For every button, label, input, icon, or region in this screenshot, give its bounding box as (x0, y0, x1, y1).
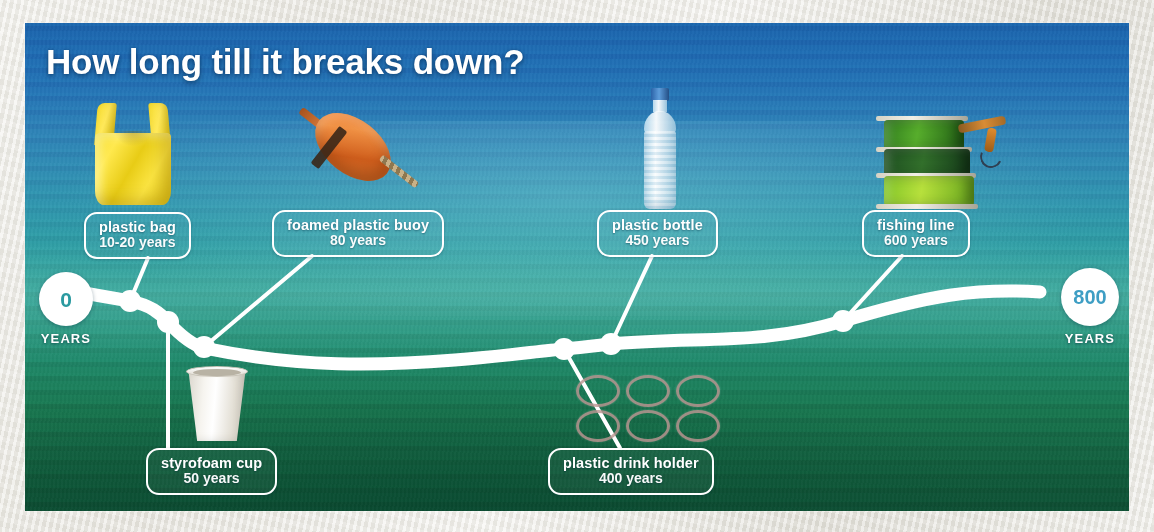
plastic-drink-holder-photo (574, 372, 726, 448)
callout-styrofoam-cup[interactable]: styrofoam cup 50 years (146, 448, 277, 495)
end-value: 800 (1073, 287, 1106, 307)
callout-label: styrofoam cup (161, 455, 262, 471)
bottle-shoulder (644, 111, 676, 133)
start-value: 0 (60, 289, 72, 310)
drink-holder-ring (676, 375, 720, 407)
callout-plastic-bottle[interactable]: plastic bottle 450 years (597, 210, 718, 257)
callout-duration: 600 years (877, 233, 955, 249)
callout-label: plastic bottle (612, 217, 703, 233)
callout-duration: 50 years (161, 471, 262, 487)
callout-fishing-line[interactable]: fishing line 600 years (862, 210, 970, 257)
plastic-bag-photo (88, 103, 178, 205)
callout-plastic-bag[interactable]: plastic bag 10-20 years (84, 212, 191, 259)
callout-label: foamed plastic buoy (287, 217, 429, 233)
foamed-plastic-buoy-photo (288, 92, 424, 214)
start-value-bubble: 0 (39, 272, 93, 326)
styrofoam-cup-opening (193, 369, 241, 376)
spool-green (884, 120, 964, 150)
page-title: How long till it breaks down? (46, 42, 524, 82)
timeline-end-marker: 800 YEARS (1042, 268, 1138, 346)
timeline-start-marker: 0 YEARS (18, 272, 114, 346)
end-value-bubble: 800 (1061, 268, 1119, 326)
callout-duration: 400 years (563, 471, 699, 487)
callout-plastic-drink-holder[interactable]: plastic drink holder 400 years (548, 448, 714, 495)
fishing-hook-icon (977, 143, 1005, 171)
styrofoam-cup-body (186, 371, 248, 441)
callout-label: fishing line (877, 217, 955, 233)
drink-holder-ring (576, 410, 620, 442)
plastic-bottle-photo (640, 88, 680, 212)
drink-holder-ring (576, 375, 620, 407)
drink-holder-ring (676, 410, 720, 442)
callout-duration: 450 years (612, 233, 703, 249)
bottle-body (644, 131, 676, 209)
callout-duration: 80 years (287, 233, 429, 249)
drink-holder-ring (626, 410, 670, 442)
drink-holder-ring (626, 375, 670, 407)
start-unit-label: YEARS (18, 331, 114, 346)
callout-foamed-plastic-buoy[interactable]: foamed plastic buoy 80 years (272, 210, 444, 257)
callout-label: plastic drink holder (563, 455, 699, 471)
spool-yellow-green (884, 176, 974, 206)
buoy-body (302, 99, 403, 194)
end-unit-label: YEARS (1042, 331, 1138, 346)
fishing-line-spools-photo (862, 98, 1012, 210)
callout-duration: 10-20 years (99, 235, 176, 251)
spool-flange-bottom (876, 204, 978, 209)
callout-label: plastic bag (99, 219, 176, 235)
styrofoam-cup-photo (186, 363, 248, 443)
infographic-page: How long till it breaks down? (0, 0, 1154, 532)
